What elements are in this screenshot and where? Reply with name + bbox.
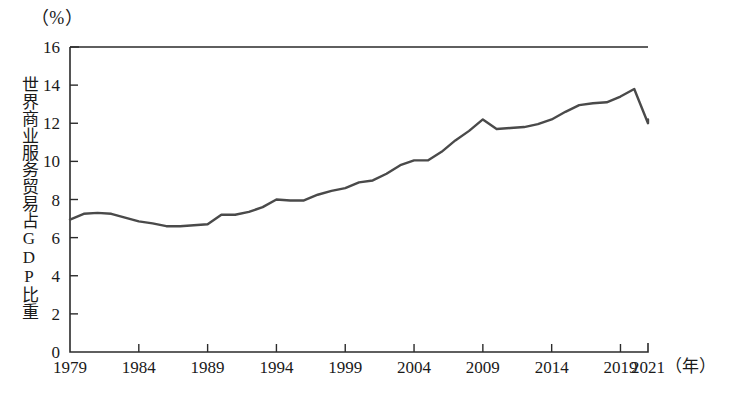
x-tick-label: 1989 (191, 358, 225, 377)
y-tick-label: 10 (43, 152, 60, 171)
x-tick-group: 1979198419891994199920042009201420192021 (53, 344, 665, 377)
y-tick-label: 4 (52, 267, 61, 286)
y-tick-label: 16 (43, 38, 60, 57)
x-tick-label: 2009 (466, 358, 500, 377)
axes-group (70, 47, 648, 352)
chart-figure: （%） 世界商业服务贸易占GDP比重 0246810121416 1979198… (0, 0, 731, 410)
y-tick-label: 12 (43, 114, 60, 133)
x-tick-label: 1994 (259, 358, 294, 377)
x-tick-label: 1999 (328, 358, 362, 377)
data-series-group (70, 89, 648, 226)
y-tick-label: 8 (52, 191, 61, 210)
x-axis-unit-label: （年） (665, 352, 716, 377)
y-tick-group: 0246810121416 (43, 38, 78, 362)
line-chart-plot: 0246810121416 19791984198919941999200420… (0, 0, 731, 410)
x-tick-label: 2014 (535, 358, 570, 377)
y-tick-label: 14 (43, 76, 61, 95)
x-tick-label: 1979 (53, 358, 87, 377)
x-tick-label: 2004 (397, 358, 432, 377)
y-tick-label: 2 (52, 305, 61, 324)
figure-caption (0, 401, 731, 410)
x-tick-label: 1984 (122, 358, 157, 377)
y-tick-label: 6 (52, 229, 61, 248)
axis-spines (70, 47, 648, 352)
series-path (70, 89, 648, 226)
x-tick-label: 2021 (631, 358, 665, 377)
